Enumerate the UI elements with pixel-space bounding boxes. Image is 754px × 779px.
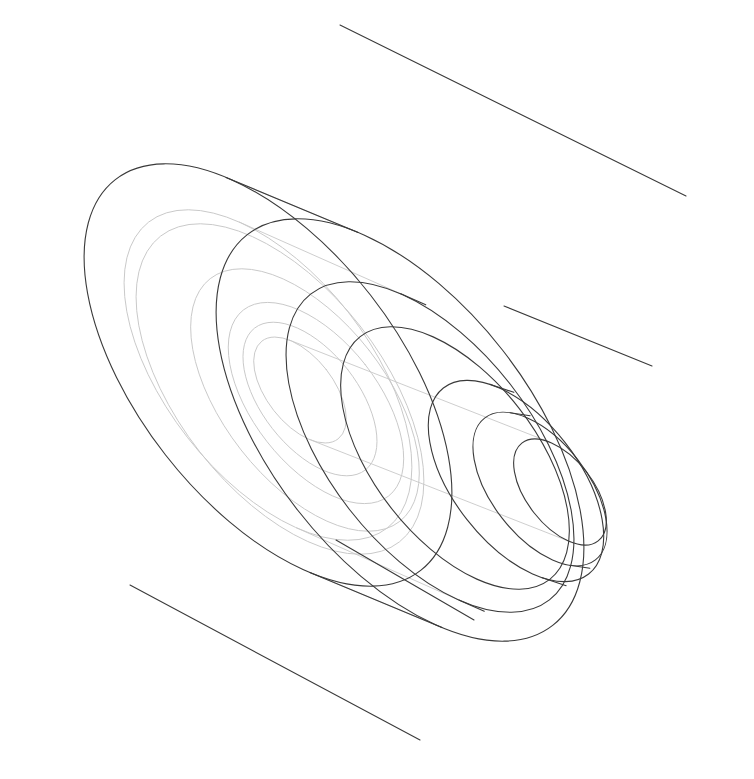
canvas-background <box>0 0 754 779</box>
wireframe-svg <box>0 0 754 779</box>
cad-drawing-canvas <box>0 0 754 779</box>
